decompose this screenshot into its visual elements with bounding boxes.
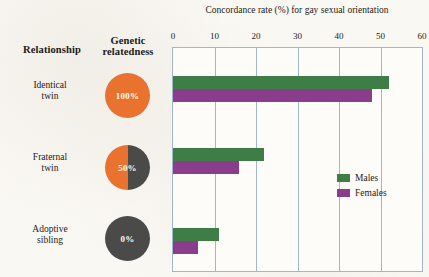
x-tick-label-20: 20 [252,32,261,41]
legend-entry-males: Males [337,170,387,185]
bar-adoptive-sibling-females [173,241,198,254]
row-label-line2: sibling [4,235,96,246]
relatedness-percent-label: 50% [105,163,150,173]
x-tick-label-30: 30 [293,32,302,41]
row-label-identical-twin: Identical twin [4,80,96,102]
x-tick-label-60: 60 [418,32,427,41]
relatedness-pie-identical-twin: 100% [105,73,150,118]
column-header-genetic-relatedness: Genetic relatedness [92,36,164,57]
row-label-line1: Identical [33,80,66,90]
legend-entry-females: Females [337,185,387,200]
x-tick-label-40: 40 [335,32,344,41]
bar-adoptive-sibling-males [173,228,219,241]
row-label-line1: Adoptive [32,224,67,234]
legend-swatch-males [337,174,350,182]
relatedness-pie-fraternal-twin: 50% [105,145,150,190]
row-label-line2: twin [4,91,96,102]
column-header-relationship: Relationship [6,45,98,56]
row-label-line1: Fraternal [33,152,67,162]
bar-identical-twin-males [173,76,389,89]
legend-swatch-females [337,189,350,197]
row-label-fraternal-twin: Fraternal twin [4,152,96,174]
x-tick-label-10: 10 [210,32,219,41]
x-tick-label-0: 0 [171,32,176,41]
plot-area: 0102030405060 [172,47,423,272]
row-label-line2: twin [4,163,96,174]
legend-label-females: Females [355,188,387,198]
column-header-relatedness-line1: Genetic [110,35,145,46]
concordance-rate-figure: Relationship Genetic relatedness Identic… [0,0,429,277]
bar-identical-twin-females [173,89,372,102]
bar-fraternal-twin-females [173,161,239,174]
row-label-adoptive-sibling: Adoptive sibling [4,224,96,246]
relatedness-percent-label: 0% [105,234,150,244]
legend: MalesFemales [337,170,387,200]
relatedness-percent-label: 100% [105,91,150,101]
chart-title: Concordance rate (%) for gay sexual orie… [172,5,422,16]
legend-label-males: Males [355,173,378,183]
x-tick-label-50: 50 [376,32,385,41]
bar-fraternal-twin-males [173,148,264,161]
column-header-relatedness-line2: relatedness [92,47,164,58]
relatedness-pie-adoptive-sibling: 0% [105,216,150,261]
